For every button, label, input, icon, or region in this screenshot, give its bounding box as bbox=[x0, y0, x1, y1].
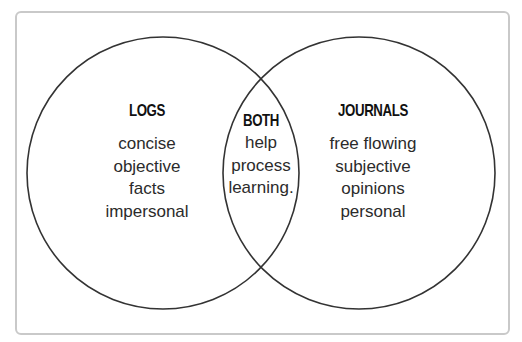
both-section: BOTH help process learning. bbox=[228, 111, 293, 200]
journals-items: free flowing subjective opinions persona… bbox=[328, 133, 418, 223]
logs-heading: LOGS bbox=[115, 101, 180, 121]
both-items: help process learning. bbox=[228, 132, 293, 200]
both-heading: BOTH bbox=[236, 111, 287, 131]
journals-item: subjective bbox=[328, 156, 418, 179]
logs-item: concise bbox=[105, 133, 188, 156]
logs-item: facts bbox=[105, 178, 188, 201]
logs-item: impersonal bbox=[105, 201, 188, 224]
journals-heading: JOURNALS bbox=[338, 101, 408, 121]
logs-items: concise objective facts impersonal bbox=[105, 133, 188, 223]
both-item: process bbox=[228, 155, 293, 178]
journals-item: opinions bbox=[328, 178, 418, 201]
logs-section: LOGS concise objective facts impersonal bbox=[105, 101, 188, 223]
both-item: help bbox=[228, 132, 293, 155]
both-item: learning. bbox=[228, 177, 293, 200]
journals-item: free flowing bbox=[328, 133, 418, 156]
journals-item: personal bbox=[328, 201, 418, 224]
logs-item: objective bbox=[105, 156, 188, 179]
journals-section: JOURNALS free flowing subjective opinion… bbox=[328, 101, 418, 223]
